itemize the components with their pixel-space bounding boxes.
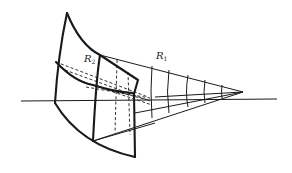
label-r2-sub: 2 [92, 58, 96, 65]
label-r2-main: R [84, 53, 92, 64]
label-r1: R1 [156, 51, 167, 62]
label-r1-sub: 1 [164, 55, 168, 62]
label-r2: R2 [84, 54, 95, 65]
label-r1-main: R [156, 50, 164, 61]
inner-surface [56, 55, 155, 157]
cone-surface-diagram [0, 0, 292, 173]
